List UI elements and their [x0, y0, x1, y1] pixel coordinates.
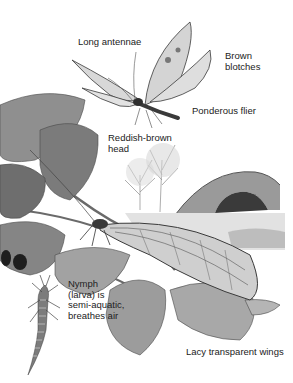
- nymph-larva: [28, 275, 60, 375]
- label-lacy-transparent-wings: Lacy transparent wings: [186, 347, 284, 358]
- alderfly-illustration: Long antennae Brown blotches Ponderous f…: [0, 0, 293, 383]
- stone-bridge: [175, 172, 280, 215]
- label-ponderous-flier: Ponderous flier: [192, 106, 256, 117]
- label-nymph: Nymph (larva) is semi-aquatic, breathes …: [68, 279, 125, 321]
- label-long-antennae: Long antennae: [78, 37, 141, 48]
- label-reddish-brown-head: Reddish-brown head: [108, 133, 172, 154]
- label-brown-blotches: Brown blotches: [225, 51, 260, 72]
